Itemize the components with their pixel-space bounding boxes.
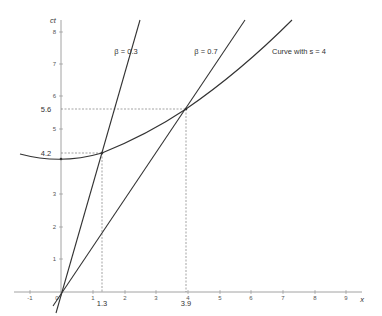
- x-tick-label: 5: [218, 295, 222, 301]
- label-beta-0.7: β = 0.7: [194, 47, 217, 56]
- y-tick-label: 3: [53, 191, 57, 197]
- y-tick-labels: 1 2 3 5 6 7 8: [53, 29, 57, 262]
- worldline-beta-0.3: [56, 20, 140, 313]
- x-value-label-3.9: 3.9: [181, 299, 191, 308]
- worldline-beta-0.7: [53, 20, 245, 306]
- x-tick-label: 1: [91, 295, 95, 301]
- x-tick-label: -1: [27, 295, 33, 301]
- spacetime-diagram: -1 0 1 2 3 4 5 6 7 8 9 x 1 2 3 5 6 7 8 c…: [0, 0, 382, 316]
- point-intersection-1: [101, 152, 104, 155]
- label-curve-s-4: Curve with s = 4: [272, 47, 326, 56]
- y-tick-label: 2: [53, 224, 57, 230]
- label-beta-0.3: β = 0.3: [114, 47, 137, 56]
- x-tick-label: 2: [123, 295, 127, 301]
- y-tick-label: 8: [53, 29, 57, 35]
- y-value-label-5.6: 5.6: [41, 105, 51, 114]
- x-tick-label: 8: [313, 295, 317, 301]
- x-tick-label: 9: [344, 295, 348, 301]
- y-tick-label: 1: [53, 256, 57, 262]
- y-tick-label: 5: [53, 126, 57, 132]
- x-tick-label: 3: [154, 295, 158, 301]
- x-axis-label: x: [359, 295, 364, 304]
- x-value-label-1.3: 1.3: [97, 299, 107, 308]
- point-intersection-2: [185, 108, 188, 111]
- y-axis-label: ct: [50, 16, 57, 25]
- point-curve-vertex: [60, 158, 63, 161]
- x-tick-label: 7: [281, 295, 285, 301]
- y-tick-label: 7: [53, 61, 57, 67]
- x-tick-label: 6: [249, 295, 253, 301]
- y-tick-label: 6: [53, 93, 57, 99]
- y-value-label-4.2: 4.2: [41, 149, 51, 158]
